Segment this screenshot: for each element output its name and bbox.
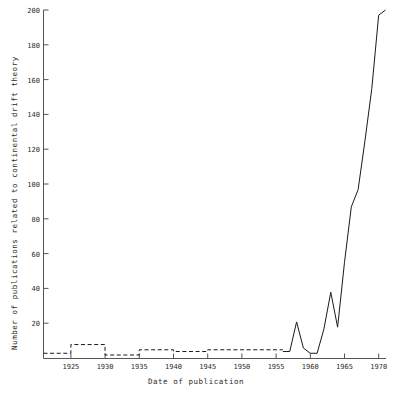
y-axis-title: Number of publications related to contin… [10,56,19,350]
y-tick-140: 140 [27,111,48,119]
y-tick-120: 120 [27,146,48,154]
svg-text:60: 60 [32,251,40,259]
svg-text:1970: 1970 [370,363,387,371]
svg-text:1945: 1945 [199,363,216,371]
svg-text:20: 20 [32,320,40,328]
x-tick-1970: 1970 [370,354,387,372]
svg-text:1965: 1965 [336,363,353,371]
x-tick-1950: 1950 [233,354,250,372]
y-tick-100: 100 [27,181,48,189]
y-tick-180: 180 [27,42,48,50]
svg-text:1955: 1955 [268,363,285,371]
svg-text:40: 40 [32,285,40,293]
y-tick-80: 80 [32,216,49,224]
svg-text:140: 140 [27,111,40,119]
svg-text:1930: 1930 [97,363,114,371]
svg-text:200: 200 [27,7,40,15]
x-tick-1960: 1960 [302,354,319,372]
x-tick-1945: 1945 [199,354,216,372]
series-early-period-dashed [44,345,283,355]
x-tick-1940: 1940 [165,354,182,372]
y-tick-60: 60 [32,251,49,259]
svg-text:100: 100 [27,181,40,189]
y-tick-20: 20 [32,320,49,328]
series-modern-period-solid [283,10,386,353]
y-tick-40: 40 [32,285,49,293]
x-tick-1955: 1955 [268,354,285,372]
svg-text:1925: 1925 [62,363,79,371]
svg-text:80: 80 [32,216,40,224]
svg-text:120: 120 [27,146,40,154]
publications-line-chart: Number of publications related to contin… [0,0,393,397]
x-tick-1930: 1930 [97,354,114,372]
x-tick-1935: 1935 [131,354,148,372]
x-tick-1925: 1925 [62,354,79,372]
svg-text:180: 180 [27,42,40,50]
y-axis-ticks: 20 40 60 80 100 120 [27,7,48,328]
chart-figure: Number of publications related to contin… [0,0,393,397]
y-tick-200: 200 [27,7,48,15]
x-axis-ticks: 1925 1930 1935 1940 1945 1950 [62,354,387,372]
svg-text:1940: 1940 [165,363,182,371]
svg-text:1935: 1935 [131,363,148,371]
svg-text:160: 160 [27,77,40,85]
svg-text:1950: 1950 [233,363,250,371]
y-tick-160: 160 [27,77,48,85]
svg-text:1960: 1960 [302,363,319,371]
x-tick-1965: 1965 [336,354,353,372]
x-axis-title: Date of publication [148,377,244,386]
